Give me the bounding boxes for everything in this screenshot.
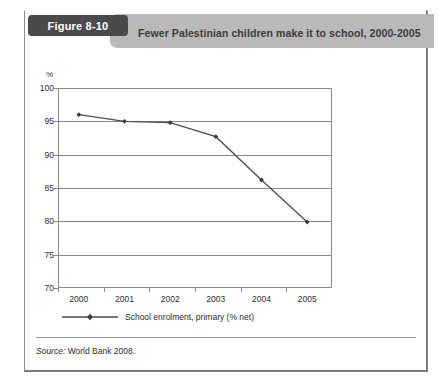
series-line bbox=[79, 115, 307, 222]
y-axis-tick-mark bbox=[54, 188, 58, 189]
y-axis-tick-mark bbox=[54, 121, 58, 122]
y-axis-tick-mark bbox=[54, 255, 58, 256]
x-axis-tick-label: 2000 bbox=[69, 294, 88, 304]
x-axis-tick-label: 2005 bbox=[298, 294, 317, 304]
x-axis-tick-label: 2003 bbox=[206, 294, 225, 304]
x-axis-tick-label: 2001 bbox=[115, 294, 134, 304]
legend-line-marker-icon bbox=[62, 312, 118, 322]
legend-item-label: School enrolment, primary (% net) bbox=[125, 312, 254, 322]
data-point-marker bbox=[122, 119, 127, 124]
x-axis-tick-mark bbox=[195, 288, 196, 292]
y-axis-tick-label: 70 bbox=[45, 283, 54, 293]
x-axis-tick-mark bbox=[149, 288, 150, 292]
source-note: Source: World Bank 2008. bbox=[36, 346, 135, 356]
data-point-marker bbox=[76, 112, 81, 117]
y-axis-tick-labels: 100959085807570 bbox=[30, 88, 54, 288]
y-axis-unit-label: % bbox=[46, 70, 53, 79]
y-axis-tick-mark bbox=[54, 288, 58, 289]
x-axis-tick-mark bbox=[58, 288, 59, 292]
figure-container: Figure 8-10 Fewer Palestinian children m… bbox=[0, 0, 438, 386]
x-axis-tick-mark bbox=[286, 288, 287, 292]
data-point-marker bbox=[168, 120, 173, 125]
x-axis-tick-mark bbox=[241, 288, 242, 292]
y-axis-tick-label: 100 bbox=[40, 83, 54, 93]
y-axis-tick-label: 85 bbox=[45, 183, 54, 193]
x-axis-tick-mark bbox=[104, 288, 105, 292]
chart-legend: School enrolment, primary (% net) bbox=[62, 312, 254, 322]
series-line-chart bbox=[58, 88, 332, 288]
plot-area bbox=[58, 88, 332, 288]
y-axis-tick-label: 95 bbox=[45, 116, 54, 126]
source-prefix: Source: bbox=[36, 346, 65, 356]
x-axis-tick-label: 2002 bbox=[161, 294, 180, 304]
source-divider bbox=[36, 337, 416, 338]
y-axis-tick-label: 90 bbox=[45, 150, 54, 160]
x-axis-tick-label: 2004 bbox=[252, 294, 271, 304]
figure-number-tag: Figure 8-10 bbox=[28, 15, 128, 36]
y-axis-tick-mark bbox=[54, 221, 58, 222]
y-axis-tick-mark bbox=[54, 155, 58, 156]
figure-number-label: Figure 8-10 bbox=[48, 20, 109, 32]
y-axis-tick-label: 80 bbox=[45, 216, 54, 226]
y-axis-tick-label: 75 bbox=[45, 250, 54, 260]
source-text: World Bank 2008. bbox=[68, 346, 135, 356]
chart-title: Fewer Palestinian children make it to sc… bbox=[138, 27, 421, 39]
y-axis-tick-mark bbox=[54, 88, 58, 89]
